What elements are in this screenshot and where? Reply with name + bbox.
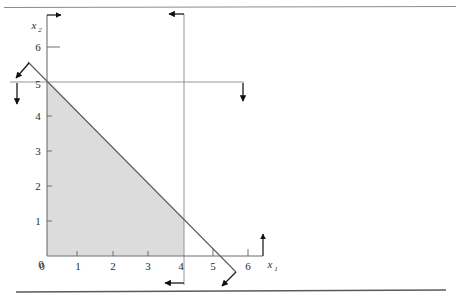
x-tick-label-3: 3 [145,260,151,272]
x-tick-label-4: 4 [178,260,184,272]
y-tick-label-2: 2 [35,180,41,192]
feasible-region [47,80,184,256]
x-tick-label-6: 6 [245,260,251,272]
y-tick-label-3: 3 [35,145,41,157]
x2-axis-label-subscript: 2 [38,26,42,34]
y-tick-label-0: 0 [38,258,44,270]
y-tick-label-1: 1 [35,215,41,227]
x-tick-label-1: 1 [75,260,81,272]
y-tick-label-4: 4 [35,110,41,122]
x1-axis-label-subscript: 1 [274,265,278,273]
x1-axis-label: x [267,258,273,270]
figure-container: 0 1 2 3 4 5 6 0 1 2 3 4 5 6 x 2 x 1 [0,0,460,303]
arrow-diagonal-lower-right [222,272,236,286]
x-tick-label-5: 5 [210,260,216,272]
x-tick-label-2: 2 [110,260,116,272]
arrow-diagonal-upper-left [16,63,29,78]
top-rule [4,7,456,8]
bottom-rule [16,290,446,292]
x2-axis-label: x [31,19,37,31]
y-tick-label-6: 6 [35,41,41,53]
y-tick-label-5: 5 [35,78,41,90]
